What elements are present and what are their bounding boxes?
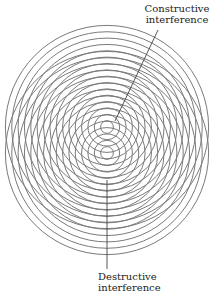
- interference-diagram: [0, 0, 215, 296]
- constructive-interference-label: Constructive interference: [144, 3, 210, 25]
- constructive-label-line2: interference: [144, 14, 210, 25]
- destructive-label-line1: Destructive: [98, 271, 156, 282]
- destructive-label-line2: interference: [98, 282, 156, 293]
- wavefront-ring: [69, 89, 145, 165]
- wavefront-ring: [94, 140, 119, 165]
- wavefront-ring: [50, 70, 164, 184]
- constructive-label-line1: Constructive: [144, 3, 210, 14]
- wavefront-ring: [37, 57, 177, 197]
- wavefront-ring: [101, 121, 114, 134]
- wavefront-ring: [69, 115, 145, 191]
- wavefront-ring: [75, 121, 139, 185]
- wavefront-ring: [75, 95, 139, 159]
- destructive-interference-label: Destructive interference: [98, 271, 156, 293]
- wavefront-ring: [101, 147, 114, 160]
